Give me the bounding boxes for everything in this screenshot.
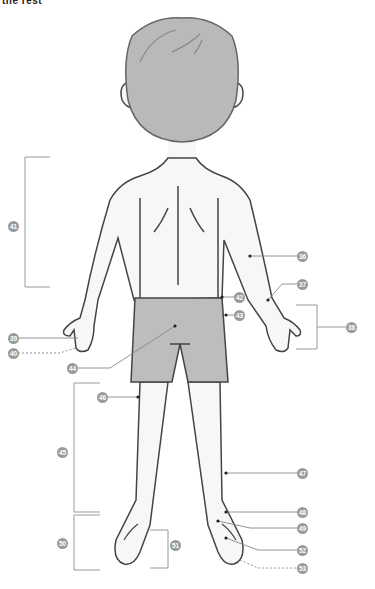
label-51: 51 bbox=[170, 540, 181, 551]
label-42: 42 bbox=[234, 292, 245, 303]
bracket-38 bbox=[296, 305, 346, 349]
label-40: 40 bbox=[8, 348, 19, 359]
shorts bbox=[131, 298, 228, 382]
label-47: 47 bbox=[297, 468, 308, 479]
label-44: 44 bbox=[67, 363, 78, 374]
label-53: 53 bbox=[297, 563, 308, 574]
label-45: 45 bbox=[57, 447, 68, 458]
label-41: 41 bbox=[8, 221, 19, 232]
label-50: 50 bbox=[57, 538, 68, 549]
bracket-50 bbox=[74, 515, 100, 570]
label-36: 36 bbox=[297, 251, 308, 262]
label-49: 49 bbox=[297, 523, 308, 534]
label-43: 43 bbox=[234, 310, 245, 321]
label-38: 38 bbox=[346, 322, 357, 333]
head-hair bbox=[126, 18, 239, 142]
bracket-51 bbox=[150, 530, 168, 568]
bracket-41 bbox=[25, 157, 50, 287]
label-46: 46 bbox=[97, 392, 108, 403]
label-39: 39 bbox=[8, 333, 19, 344]
left-leg bbox=[115, 382, 168, 564]
body-back-diagram bbox=[0, 0, 375, 589]
label-52: 52 bbox=[297, 545, 308, 556]
label-48: 48 bbox=[297, 507, 308, 518]
bracket-45 bbox=[74, 383, 100, 512]
label-37: 37 bbox=[297, 279, 308, 290]
